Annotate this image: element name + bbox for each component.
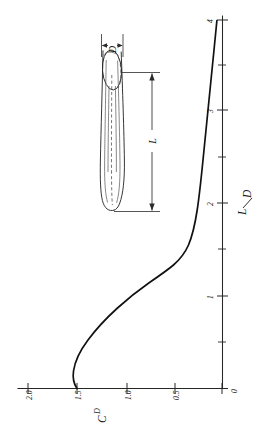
ld-tick-label-4: 4 — [206, 19, 215, 23]
ld-axis-title-numerator: L — [236, 209, 248, 216]
cd-tick-label-1-0: 1.0 — [124, 390, 133, 400]
ld-axis-title-fraction-bar — [243, 198, 252, 208]
inset-l-arrowhead-top — [149, 73, 154, 80]
cd-tick-label-1-5: 1.5 — [74, 390, 83, 400]
ld-tick-label-2: 2 — [206, 202, 215, 206]
cd-tick-label-0-5: 0.5 — [172, 390, 181, 400]
cd-axis-title-subscript: D — [93, 408, 102, 415]
figure-root: 2.0 1.5 1.0 0.5 0 0 1 2 3 4 C D L D — [0, 0, 263, 425]
inset-shade-line-b — [115, 86, 116, 172]
inset-diameter-label: D — [107, 45, 118, 54]
chart-svg: 2.0 1.5 1.0 0.5 0 0 1 2 3 4 C D L D — [0, 0, 263, 425]
inset-length-label: L — [147, 138, 158, 145]
inset-body-diagram: D L — [100, 34, 160, 212]
ld-axis-title: L D — [236, 189, 253, 216]
inset-mouth-outer-ellipse — [101, 49, 123, 90]
cd-curve — [73, 21, 217, 389]
axis-cd — [18, 383, 226, 394]
ld-axis-title-denominator: D — [241, 189, 253, 199]
inset-shade-line-a — [108, 86, 109, 172]
inset-l-arrowhead-bottom — [149, 204, 154, 211]
axis-ld — [217, 16, 228, 389]
ld-tick-label-1: 1 — [206, 295, 215, 299]
cd-axis-title: C D — [93, 408, 108, 423]
inset-inner-line-right — [117, 61, 120, 203]
inset-d-arrowhead-right — [118, 43, 123, 48]
cd-tick-label-2-0: 2.0 — [25, 390, 34, 400]
inset-centerline-dashed — [111, 75, 112, 205]
inset-mouth-inner-dashed — [117, 54, 121, 89]
inset-body-left-wall — [100, 51, 114, 211]
cd-axis-title-main: C — [96, 415, 108, 423]
cd-tick-labels: 2.0 1.5 1.0 0.5 0 — [25, 389, 239, 400]
